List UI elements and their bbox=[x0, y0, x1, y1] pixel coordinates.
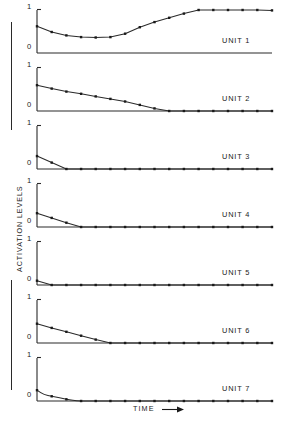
panel-6-ytick-top: 1 bbox=[27, 292, 31, 301]
panel-5-plot bbox=[0, 232, 282, 290]
panel-2-ytick-top: 1 bbox=[27, 60, 31, 69]
panel-4-label: UNIT 4 bbox=[222, 210, 250, 219]
panel-4-ytick-bottom: 0 bbox=[27, 216, 31, 225]
panel-5-series bbox=[36, 280, 273, 287]
x-axis-arrow-icon bbox=[0, 402, 282, 420]
panel-7-plot bbox=[0, 348, 282, 406]
panel-unit-6: 1 0 UNIT 6 bbox=[0, 290, 282, 348]
panel-1-label: UNIT 1 bbox=[222, 36, 250, 45]
panel-3-ytick-bottom: 0 bbox=[27, 158, 31, 167]
panel-4-plot bbox=[0, 174, 282, 232]
panel-1-plot bbox=[0, 0, 282, 58]
panel-6-ytick-bottom: 0 bbox=[27, 332, 31, 341]
panel-5-label: UNIT 5 bbox=[222, 268, 250, 277]
panel-2-ytick-bottom: 0 bbox=[27, 100, 31, 109]
panel-unit-4: 1 0 UNIT 4 bbox=[0, 174, 282, 232]
panel-6-plot bbox=[0, 290, 282, 348]
panel-unit-3: 1 0 UNIT 3 bbox=[0, 116, 282, 174]
activation-levels-figure: ACTIVATION LEVELS 1 0 UNIT 1 bbox=[0, 0, 282, 422]
panel-3-label: UNIT 3 bbox=[222, 152, 250, 161]
panel-7-label: UNIT 7 bbox=[222, 384, 250, 393]
panel-6-label: UNIT 6 bbox=[222, 326, 250, 335]
panel-3-ytick-top: 1 bbox=[27, 118, 31, 127]
panel-4-ytick-top: 1 bbox=[27, 176, 31, 185]
x-axis-title-group: TIME bbox=[0, 402, 282, 422]
panel-unit-5: 1 0 UNIT 5 bbox=[0, 232, 282, 290]
panel-2-label: UNIT 2 bbox=[222, 94, 250, 103]
panel-unit-1: 1 0 UNIT 1 bbox=[0, 0, 282, 58]
panel-1-series bbox=[36, 9, 273, 39]
panel-5-ytick-top: 1 bbox=[27, 234, 31, 243]
panel-5-ytick-bottom: 0 bbox=[27, 274, 31, 283]
panel-7-ytick-bottom: 0 bbox=[27, 390, 31, 399]
panel-7-ytick-top: 1 bbox=[27, 350, 31, 359]
panel-2-plot bbox=[0, 58, 282, 116]
panel-stack: 1 0 UNIT 1 bbox=[0, 0, 282, 422]
panel-3-plot bbox=[0, 116, 282, 174]
panel-1-ytick-bottom: 0 bbox=[27, 42, 31, 51]
panel-unit-7: 1 0 UNIT 7 bbox=[0, 348, 282, 406]
panel-unit-2: 1 0 UNIT 2 bbox=[0, 58, 282, 116]
panel-1-ytick-top: 1 bbox=[27, 2, 31, 11]
